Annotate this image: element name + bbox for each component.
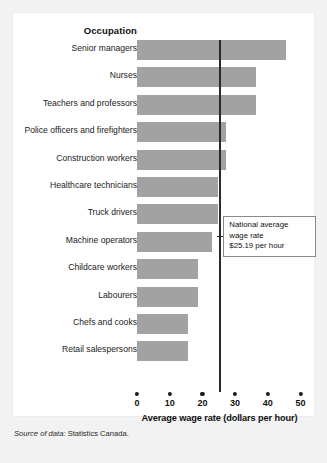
x-axis-tick-label: 50 <box>288 398 314 408</box>
x-axis-tick-label: 10 <box>157 398 183 408</box>
bar-category-label: Labourers <box>0 290 137 301</box>
occupation-column-header: Occupation <box>13 25 137 36</box>
plot-area: Occupation Senior managersNursesTeachers… <box>13 13 314 416</box>
bar-category-label: Healthcare technicians <box>0 180 137 191</box>
bar-category-label: Childcare workers <box>0 262 137 273</box>
national-average-callout: National average wage rate $25.19 per ho… <box>223 216 316 257</box>
bar <box>137 122 226 142</box>
x-axis: 01020304050 Average wage rate (dollars p… <box>13 392 314 426</box>
x-axis-tick-mark <box>135 392 139 396</box>
x-axis-tick-label: 0 <box>124 398 150 408</box>
figure-container: Occupation Senior managersNursesTeachers… <box>0 0 327 463</box>
bar-row: Labourers <box>13 287 314 307</box>
bar <box>137 314 188 334</box>
national-average-reference-line <box>219 40 220 392</box>
bar-row: Chefs and cooks <box>13 314 314 334</box>
bar <box>137 95 256 115</box>
bar <box>137 287 198 307</box>
callout-line-3: $25.19 per hour <box>229 241 311 252</box>
bar-category-label: Retail salespersons <box>0 344 137 355</box>
bar <box>137 177 218 197</box>
x-axis-tick-mark <box>200 392 204 396</box>
source-note-text: Statistics Canada. <box>66 429 129 438</box>
bar <box>137 259 198 279</box>
bar-row: Childcare workers <box>13 259 314 279</box>
x-axis-tick-label: 20 <box>189 398 215 408</box>
bar-row: Police officers and firefighters <box>13 122 314 142</box>
bar-category-label: Truck drivers <box>0 207 137 218</box>
bar-category-label: Nurses <box>0 70 137 81</box>
bar-category-label: Chefs and cooks <box>0 317 137 328</box>
x-axis-tick-mark <box>298 392 302 396</box>
bar-row: Teachers and professors <box>13 95 314 115</box>
bar-category-label: Construction workers <box>0 153 137 164</box>
x-axis-tick-label: 40 <box>255 398 281 408</box>
bar-category-label: Police officers and firefighters <box>0 125 137 136</box>
callout-line-2: wage rate <box>229 231 311 242</box>
bar <box>137 40 286 60</box>
x-axis-tick-mark <box>233 392 237 396</box>
x-axis-tick-mark <box>168 392 172 396</box>
source-note: Source of data: Statistics Canada. <box>14 429 129 438</box>
bar <box>137 67 256 87</box>
bar <box>137 341 188 361</box>
x-axis-tick-label: 30 <box>222 398 248 408</box>
callout-line-1: National average <box>229 220 311 231</box>
bar-category-label: Teachers and professors <box>0 98 137 109</box>
bar-row: Construction workers <box>13 150 314 170</box>
bar-row: Retail salespersons <box>13 341 314 361</box>
bar <box>137 232 212 252</box>
x-axis-title: Average wage rate (dollars per hour) <box>125 413 314 423</box>
bar-row: Nurses <box>13 67 314 87</box>
bar <box>137 204 218 224</box>
bar <box>137 150 226 170</box>
chart-panel: Occupation Senior managersNursesTeachers… <box>13 13 314 416</box>
bar-category-label: Machine operators <box>0 235 137 246</box>
bar-row: Senior managers <box>13 40 314 60</box>
bar-category-label: Senior managers <box>0 43 137 54</box>
x-axis-tick-mark <box>266 392 270 396</box>
source-note-lead: Source of data: <box>14 429 66 438</box>
bar-row: Healthcare technicians <box>13 177 314 197</box>
